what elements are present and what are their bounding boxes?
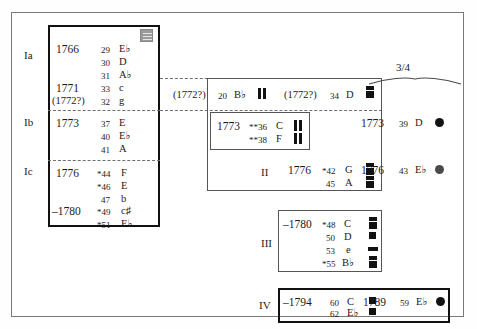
marker-circle-black: [436, 297, 445, 306]
group-label-Ib: Ib: [24, 117, 33, 128]
entry-key: C: [344, 219, 351, 230]
marker-circle-grey: [435, 165, 444, 174]
entry-number: 40: [101, 133, 110, 142]
entry-year: 1776: [361, 165, 384, 177]
marker-wide-square: [368, 247, 378, 251]
group-label-Ic: Ic: [24, 166, 33, 177]
entry-key: A♭: [119, 70, 132, 81]
entry-key: G: [345, 165, 353, 176]
entry-year: (1772?): [52, 96, 85, 107]
entry-key: E♭: [415, 165, 426, 176]
entry-key: E♭: [416, 297, 427, 308]
entry-number: 60: [330, 299, 339, 308]
entry-key: E♭: [119, 44, 130, 55]
marker-stacked-square: [366, 86, 374, 98]
entry-number: *49: [97, 208, 111, 217]
entry-key: E♭: [347, 308, 358, 319]
entry-number: 33: [101, 85, 110, 94]
entry-key: F: [121, 168, 127, 179]
divider-Ib-Ic: [48, 160, 160, 161]
marker-bar-pair: [258, 88, 267, 99]
entry-year: 1773: [56, 118, 79, 130]
entry-year: 1773: [217, 121, 240, 133]
entry-year: –1780: [52, 206, 81, 218]
group-label-IV: IV: [259, 300, 271, 311]
entry-number: 30: [101, 59, 110, 68]
entry-key: C: [347, 297, 354, 308]
entry-key: F: [276, 134, 282, 145]
entry-key: e: [346, 245, 351, 256]
marker-circle-black: [435, 118, 444, 127]
divider-Ia-Ib: [48, 110, 160, 111]
figure-canvas: Ia Ib Ic 1766 29 E♭ 30 D 31 A♭ 1771 33 c…: [0, 0, 477, 329]
entry-key: b: [121, 194, 126, 205]
entry-number: **36: [249, 123, 267, 132]
entry-number: *55: [322, 260, 336, 269]
entry-number: 47: [101, 196, 110, 205]
entry-year: 1776: [288, 165, 311, 177]
entry-key: B♭: [234, 90, 246, 101]
entry-key: A: [119, 144, 127, 155]
entry-key: g: [119, 96, 124, 107]
entry-number: *51: [97, 221, 111, 230]
entry-key: B♭: [342, 258, 354, 269]
entry-number: 34: [330, 92, 339, 101]
entry-number: *42: [322, 167, 336, 176]
entry-number: 59: [400, 299, 409, 308]
group-label-Ia: Ia: [24, 50, 33, 61]
entry-year: 1776: [56, 168, 79, 180]
entry-key: C: [276, 121, 283, 132]
marker-stacked-square: [369, 217, 377, 229]
group-label-III: III: [261, 238, 272, 249]
entry-key: E♭: [119, 131, 130, 142]
entry-number: 62: [330, 310, 339, 319]
music-note-icon: [140, 29, 153, 42]
entry-key: A: [345, 178, 353, 189]
entry-year: –1794: [283, 297, 312, 309]
entry-number: 37: [101, 120, 110, 129]
entry-year: –1780: [283, 219, 312, 231]
marker-stacked-square: [369, 256, 377, 268]
entry-number: 29: [101, 46, 110, 55]
marker-square: [369, 232, 376, 239]
entry-number: **38: [249, 136, 267, 145]
time-signature-label: 3/4: [396, 62, 410, 73]
entry-number: 53: [326, 247, 335, 256]
entry-year: (1772?): [284, 90, 317, 101]
entry-key: E♭: [121, 219, 132, 230]
marker-stacked-square: [366, 176, 374, 188]
entry-number: *46: [97, 183, 111, 192]
entry-year: 1771: [56, 83, 79, 95]
group-label-II: II: [261, 167, 268, 178]
brace-3-4: [368, 76, 462, 85]
entry-number: *44: [97, 170, 111, 179]
entry-number: 39: [399, 120, 408, 129]
entry-key: D: [415, 118, 423, 129]
entry-key: D: [119, 57, 127, 68]
entry-number: 31: [101, 72, 110, 81]
entry-key: c♯: [121, 206, 131, 217]
entry-year: 1766: [56, 44, 79, 56]
entry-number: 50: [326, 234, 335, 243]
entry-number: *48: [322, 221, 336, 230]
entry-key: c: [119, 83, 124, 94]
entry-number: 41: [101, 146, 110, 155]
marker-bar-pair: [294, 120, 303, 131]
entry-year: (1772?): [173, 90, 206, 101]
entry-number: 45: [326, 180, 335, 189]
entry-key: D: [346, 90, 354, 101]
marker-bar-pair: [294, 133, 303, 144]
entry-key: E: [119, 118, 125, 129]
entry-key: D: [344, 232, 352, 243]
entry-number: 20: [218, 92, 227, 101]
entry-number: 32: [101, 98, 110, 107]
entry-year: 1773: [361, 118, 384, 130]
entry-year: 1789: [363, 297, 386, 309]
entry-key: E: [121, 181, 127, 192]
marker-square: [369, 308, 376, 315]
entry-number: 43: [399, 167, 408, 176]
